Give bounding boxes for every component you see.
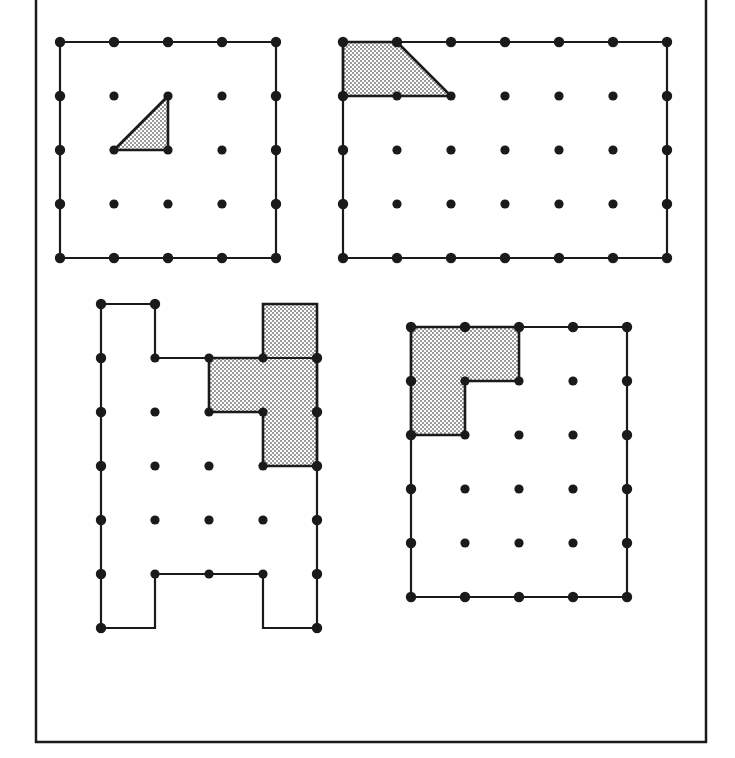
- figure-4-peg-dot: [460, 484, 469, 493]
- top-left-geoboard: [55, 37, 281, 263]
- figures-layer: [55, 37, 672, 633]
- figure-4-peg-dot: [406, 376, 416, 386]
- figure-2-peg-dot: [338, 199, 348, 209]
- figure-3-peg-dot: [150, 569, 159, 578]
- figure-4-peg-dot: [568, 430, 577, 439]
- figure-1-peg-dot: [55, 145, 65, 155]
- figure-1-peg-dot: [109, 145, 118, 154]
- bottom-right-geoboard: [406, 322, 632, 602]
- page-border: [36, 0, 706, 742]
- figure-3-peg-dot: [150, 461, 159, 470]
- figure-4-peg-dot: [514, 538, 523, 547]
- figure-2-peg-dot: [554, 91, 563, 100]
- figure-2-peg-dot: [392, 253, 402, 263]
- figure-3-peg-dot: [204, 515, 213, 524]
- figure-4-peg-dot: [622, 484, 632, 494]
- figure-3-peg-dot: [204, 407, 213, 416]
- figure-2-peg-dot: [662, 145, 672, 155]
- top-right-geoboard: [338, 37, 672, 263]
- figure-4-peg-dot: [406, 322, 416, 332]
- figure-4-peg-dot: [622, 430, 632, 440]
- figure-4-peg-dot: [622, 538, 632, 548]
- figure-3-peg-dot: [312, 515, 322, 525]
- worksheet-page: [0, 0, 735, 758]
- figure-4-peg-dot: [406, 430, 416, 440]
- figure-3-peg-dot: [96, 299, 106, 309]
- figure-1-peg-dot: [271, 37, 281, 47]
- figure-2-peg-dot: [662, 199, 672, 209]
- figure-2-peg-dot: [554, 199, 563, 208]
- figure-3-peg-dot: [312, 623, 322, 633]
- figure-3-peg-dot: [204, 569, 213, 578]
- figure-3-peg-dot: [258, 407, 267, 416]
- figure-4-peg-dot: [568, 376, 577, 385]
- figure-4-peg-dot: [460, 322, 470, 332]
- figure-1-peg-dot: [109, 253, 119, 263]
- figure-2-peg-dot: [662, 37, 672, 47]
- figure-4-peg-dot: [622, 592, 632, 602]
- figure-1-peg-dot: [271, 199, 281, 209]
- figure-2-peg-dot: [500, 145, 509, 154]
- figure-2-peg-dot: [338, 145, 348, 155]
- figure-3-peg-dot: [312, 569, 322, 579]
- figure-4-peg-dot: [460, 376, 469, 385]
- figure-4-peg-dot: [406, 484, 416, 494]
- figure-1-peg-dot: [217, 91, 226, 100]
- figure-2-peg-dot: [500, 37, 510, 47]
- figure-4-peg-dot: [460, 430, 469, 439]
- figure-2-peg-dot: [392, 199, 401, 208]
- figure-3-peg-dot: [258, 353, 267, 362]
- bottom-left-geoboard: [96, 299, 322, 633]
- figure-2-peg-dot: [392, 145, 401, 154]
- figure-2-peg-dot: [338, 37, 348, 47]
- figure-1-peg-dot: [109, 91, 118, 100]
- figure-1-peg-dot: [271, 91, 281, 101]
- figure-2-peg-dot: [446, 145, 455, 154]
- figure-2-peg-dot: [338, 253, 348, 263]
- figure-2-peg-dot: [500, 253, 510, 263]
- figure-1-peg-dot: [163, 199, 172, 208]
- figure-2-peg-dot: [608, 37, 618, 47]
- figure-4-peg-dot: [514, 430, 523, 439]
- figure-2-peg-dot: [500, 199, 509, 208]
- figure-2-peg-dot: [446, 199, 455, 208]
- figure-1-peg-dot: [109, 199, 118, 208]
- figure-1-peg-dot: [109, 37, 119, 47]
- figure-2-peg-dot: [392, 91, 401, 100]
- figure-2-peg-dot: [446, 37, 456, 47]
- figure-1-peg-dot: [55, 37, 65, 47]
- page-border-rect: [36, 0, 706, 742]
- figure-1-peg-dot: [55, 199, 65, 209]
- figure-1-peg-dot: [163, 253, 173, 263]
- figure-4-peg-dot: [514, 376, 523, 385]
- figure-2-peg-dot: [446, 91, 455, 100]
- figure-4-peg-dot: [514, 484, 523, 493]
- figure-3-peg-dot: [96, 461, 106, 471]
- figure-4-peg-dot: [568, 484, 577, 493]
- figure-2-peg-dot: [392, 37, 402, 47]
- figure-1-peg-dot: [217, 145, 226, 154]
- figure-2-peg-dot: [662, 253, 672, 263]
- figure-2-peg-dot: [608, 199, 617, 208]
- figure-1-peg-dot: [163, 91, 172, 100]
- figure-2-peg-dot: [338, 91, 348, 101]
- figure-3-peg-dot: [258, 569, 267, 578]
- figure-3-peg-dot: [312, 353, 322, 363]
- figure-2-peg-dot: [608, 253, 618, 263]
- figure-1-peg-dot: [271, 145, 281, 155]
- figure-3-peg-dot: [96, 353, 106, 363]
- figure-2-peg-dot: [554, 253, 564, 263]
- figure-4-peg-dot: [460, 592, 470, 602]
- figure-3-peg-dot: [96, 569, 106, 579]
- figure-2-peg-dot: [554, 37, 564, 47]
- figure-4-peg-dot: [568, 592, 578, 602]
- geoboard-figures-canvas: [0, 0, 735, 758]
- figure-3-peg-dot: [150, 407, 159, 416]
- figure-3-peg-dot: [258, 515, 267, 524]
- figure-2-peg-dot: [446, 253, 456, 263]
- figure-4-peg-dot: [460, 538, 469, 547]
- figure-4-peg-dot: [622, 322, 632, 332]
- figure-3-peg-dot: [150, 515, 159, 524]
- figure-4-peg-dot: [622, 376, 632, 386]
- figure-4-peg-dot: [514, 592, 524, 602]
